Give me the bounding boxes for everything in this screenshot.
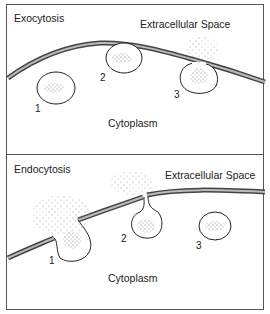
endocytosis-title: Endocytosis — [14, 163, 71, 175]
exo-extracellular-label: Extracellular Space — [140, 18, 230, 30]
exo-step-1: 1 — [35, 103, 41, 114]
exocytosis-title: Exocytosis — [14, 12, 64, 24]
exo-step-3: 3 — [174, 89, 180, 100]
exo-cytoplasm-label: Cytoplasm — [108, 117, 158, 129]
endo-step-1: 1 — [49, 255, 55, 266]
endo-extracellular-label: Extracellular Space — [165, 169, 255, 181]
endo-step-2: 2 — [121, 233, 127, 244]
endo-cytoplasm-label: Cytoplasm — [108, 272, 158, 284]
endo-step-3: 3 — [196, 240, 202, 251]
exo-step-2: 2 — [100, 72, 106, 83]
membrane-illustration — [0, 0, 270, 314]
